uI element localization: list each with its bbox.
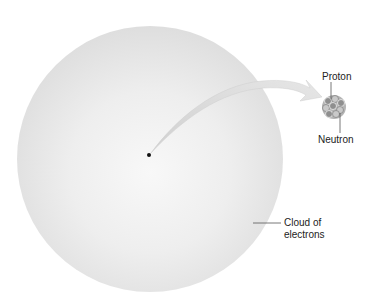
- electron-cloud: [17, 26, 283, 292]
- cloud-label-line1: Cloud of: [284, 217, 321, 229]
- atom-diagram: [0, 0, 370, 299]
- nucleus-icon: [322, 95, 346, 119]
- neutron-label: Neutron: [318, 134, 354, 146]
- cloud-label-line2: electrons: [284, 229, 325, 241]
- proton-label: Proton: [322, 71, 351, 83]
- nucleus-dot: [147, 153, 151, 157]
